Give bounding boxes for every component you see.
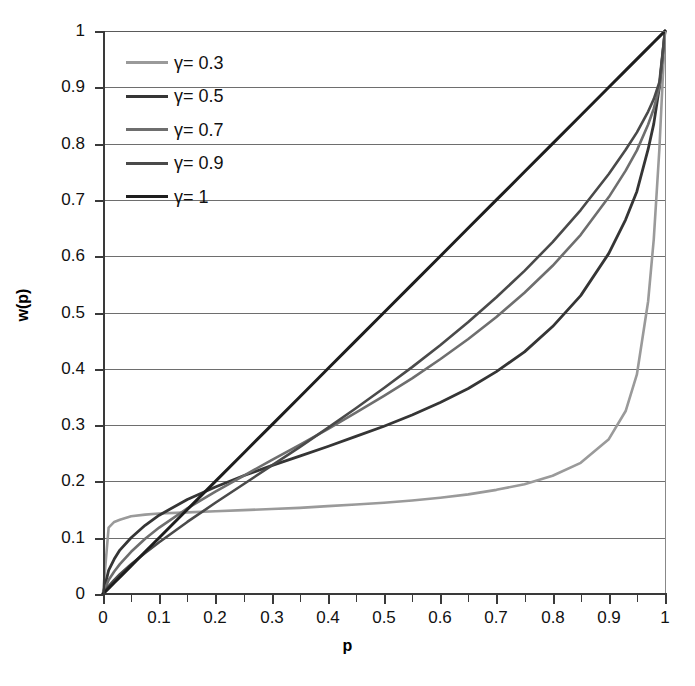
- x-tick-minor: [244, 595, 245, 602]
- y-tick: [95, 144, 104, 146]
- y-tick: [95, 369, 104, 371]
- x-tick-minor: [637, 595, 638, 602]
- legend-swatch-line: [126, 128, 168, 131]
- legend-swatch-line: [126, 162, 168, 165]
- y-tick-label: 0.2: [39, 472, 85, 489]
- x-tick: [328, 595, 330, 604]
- x-tick-label: 0.6: [415, 609, 465, 627]
- x-tick: [384, 595, 386, 604]
- y-axis-tick-labels: 00.10.20.30.40.50.60.70.80.91: [39, 0, 85, 686]
- legend-label: γ= 0.7: [174, 121, 224, 139]
- x-tick: [159, 595, 161, 604]
- x-tick-minor: [525, 595, 526, 602]
- y-tick: [95, 256, 104, 258]
- x-axis-title: p: [0, 637, 695, 655]
- y-axis-title: w(p): [14, 275, 32, 335]
- legend-label: γ= 1: [174, 188, 209, 206]
- x-tick-label: 0.5: [359, 609, 409, 627]
- y-tick-label: 0.5: [39, 304, 85, 321]
- y-tick: [95, 481, 104, 483]
- x-tick: [440, 595, 442, 604]
- y-tick: [95, 313, 104, 315]
- probability-weighting-chart: 00.10.20.30.40.50.60.70.80.91 00.10.20.3…: [0, 0, 695, 686]
- x-tick-label: 1: [640, 609, 690, 627]
- x-tick-label: 0.4: [303, 609, 353, 627]
- plot-frame-top: [103, 31, 666, 32]
- x-tick-minor: [300, 595, 301, 602]
- x-tick-label: 0.9: [584, 609, 634, 627]
- x-tick: [215, 595, 217, 604]
- legend-item: γ= 0.5: [126, 80, 276, 114]
- y-tick: [95, 200, 104, 202]
- x-tick-minor: [356, 595, 357, 602]
- y-tick: [95, 538, 104, 540]
- legend-label: γ= 0.3: [174, 54, 224, 72]
- legend-item: γ= 0.3: [126, 46, 276, 80]
- y-tick: [95, 31, 104, 33]
- y-tick-label: 0.3: [39, 416, 85, 433]
- x-tick-label: 0.2: [190, 609, 240, 627]
- plot-frame-right: [665, 31, 666, 594]
- x-tick-label: 0.3: [247, 609, 297, 627]
- y-tick-label: 0.6: [39, 247, 85, 264]
- legend-item: γ= 1: [126, 180, 276, 214]
- x-tick-label: 0.1: [134, 609, 184, 627]
- legend: γ= 0.3γ= 0.5γ= 0.7γ= 0.9γ= 1: [126, 46, 276, 214]
- x-tick-minor: [187, 595, 188, 602]
- x-tick: [272, 595, 274, 604]
- x-tick: [496, 595, 498, 604]
- x-tick: [609, 595, 611, 604]
- x-tick-minor: [468, 595, 469, 602]
- legend-label: γ= 0.5: [174, 87, 224, 105]
- x-tick-label: 0.8: [528, 609, 578, 627]
- x-tick: [103, 595, 105, 604]
- x-tick-label: 0.7: [471, 609, 521, 627]
- legend-swatch-line: [126, 195, 168, 198]
- x-tick-label: 0: [78, 609, 128, 627]
- y-tick-label: 0: [39, 585, 85, 602]
- y-tick: [95, 425, 104, 427]
- y-tick-label: 0.1: [39, 529, 85, 546]
- legend-swatch-line: [126, 95, 168, 98]
- y-tick-label: 0.7: [39, 191, 85, 208]
- y-tick-label: 0.4: [39, 360, 85, 377]
- legend-swatch-line: [126, 61, 168, 64]
- x-tick-minor: [131, 595, 132, 602]
- legend-item: γ= 0.9: [126, 147, 276, 181]
- legend-item: γ= 0.7: [126, 113, 276, 147]
- x-tick-minor: [412, 595, 413, 602]
- legend-label: γ= 0.9: [174, 154, 224, 172]
- x-tick: [665, 595, 667, 604]
- y-tick: [95, 87, 104, 89]
- y-tick-label: 1: [39, 22, 85, 39]
- y-tick-label: 0.9: [39, 78, 85, 95]
- y-tick-label: 0.8: [39, 135, 85, 152]
- x-tick-minor: [581, 595, 582, 602]
- x-tick: [553, 595, 555, 604]
